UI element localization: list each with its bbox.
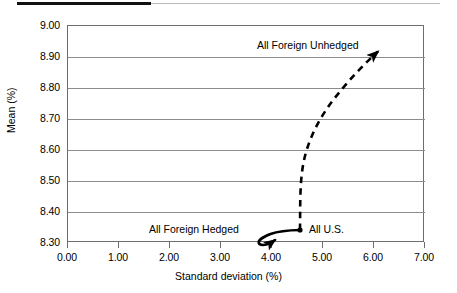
efficient-frontier-chart: 9.00 8.90 8.80 8.70 8.60 8.50 8.40 8.30 … — [0, 0, 457, 293]
xtick-label-3: 3.00 — [198, 252, 242, 263]
xtick-mark-0 — [67, 242, 68, 248]
gridline-8-60 — [68, 150, 425, 151]
xtick-mark-5 — [322, 242, 323, 248]
plot-area — [67, 25, 424, 242]
xtick-mark-1 — [118, 242, 119, 248]
annotation-all-us: All U.S. — [309, 224, 344, 235]
gridline-8-40 — [68, 212, 425, 213]
annotation-all-foreign-hedged: All Foreign Hedged — [149, 224, 239, 235]
gridline-8-80 — [68, 88, 425, 89]
ytick-label-8-30: 8.30 — [20, 237, 60, 248]
ytick-label-8-40: 8.40 — [20, 206, 60, 217]
ytick-label-8-70: 8.70 — [20, 113, 60, 124]
xtick-mark-2 — [169, 242, 170, 248]
xtick-label-2: 2.00 — [147, 252, 191, 263]
ytick-label-9-00: 9.00 — [20, 20, 60, 31]
y-axis-title: Mean (%) — [6, 87, 17, 133]
xtick-label-6: 6.00 — [351, 252, 395, 263]
ytick-label-8-60: 8.60 — [20, 144, 60, 155]
gridline-8-70 — [68, 119, 425, 120]
xtick-label-0: 0.00 — [45, 252, 89, 263]
xtick-label-5: 5.00 — [300, 252, 344, 263]
xtick-mark-3 — [220, 242, 221, 248]
ytick-label-8-90: 8.90 — [20, 51, 60, 62]
xtick-mark-4 — [271, 242, 272, 248]
xtick-mark-6 — [373, 242, 374, 248]
ytick-label-8-50: 8.50 — [20, 175, 60, 186]
ytick-label-8-80: 8.80 — [20, 82, 60, 93]
gridline-8-90 — [68, 57, 425, 58]
xtick-label-7: 7.00 — [402, 252, 446, 263]
xtick-label-4: 4.00 — [249, 252, 293, 263]
annotation-all-foreign-unhedged: All Foreign Unhedged — [257, 40, 359, 51]
xtick-label-1: 1.00 — [96, 252, 140, 263]
gridline-8-50 — [68, 181, 425, 182]
xtick-mark-7 — [424, 242, 425, 248]
x-axis-title: Standard deviation (%) — [0, 271, 457, 282]
